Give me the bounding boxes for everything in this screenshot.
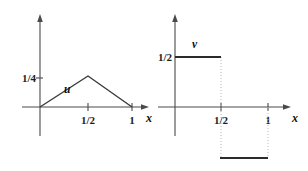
left-chart-x-tick-label-one: 1 — [129, 114, 135, 126]
left-chart-y-tick-label-quarter: 1/4 — [22, 72, 37, 84]
left-chart-group: 1/4 1/2 1 u x — [22, 14, 152, 136]
figure-canvas: 1/4 1/2 1 u x 1/2 1/2 — [0, 0, 308, 171]
right-chart-x-axis-label: x — [291, 111, 298, 125]
left-chart-x-tick-label-half: 1/2 — [81, 114, 96, 126]
left-chart-x-axis-arrow-icon — [141, 104, 149, 110]
left-chart-curve-label-u: u — [64, 83, 71, 95]
right-chart-x-axis-arrow-icon — [283, 104, 291, 110]
right-chart-group: 1/2 1/2 1 v x — [158, 14, 298, 158]
right-chart-y-axis-arrow-icon — [172, 14, 178, 22]
left-chart-x-axis-label: x — [145, 111, 152, 125]
left-chart-u-curve — [40, 76, 132, 107]
right-chart-curve-label-v: v — [192, 38, 198, 50]
two-panel-function-plot: 1/4 1/2 1 u x 1/2 1/2 — [0, 0, 308, 171]
right-chart-y-tick-label-half: 1/2 — [158, 51, 173, 63]
left-chart-y-axis-arrow-icon — [37, 14, 43, 22]
